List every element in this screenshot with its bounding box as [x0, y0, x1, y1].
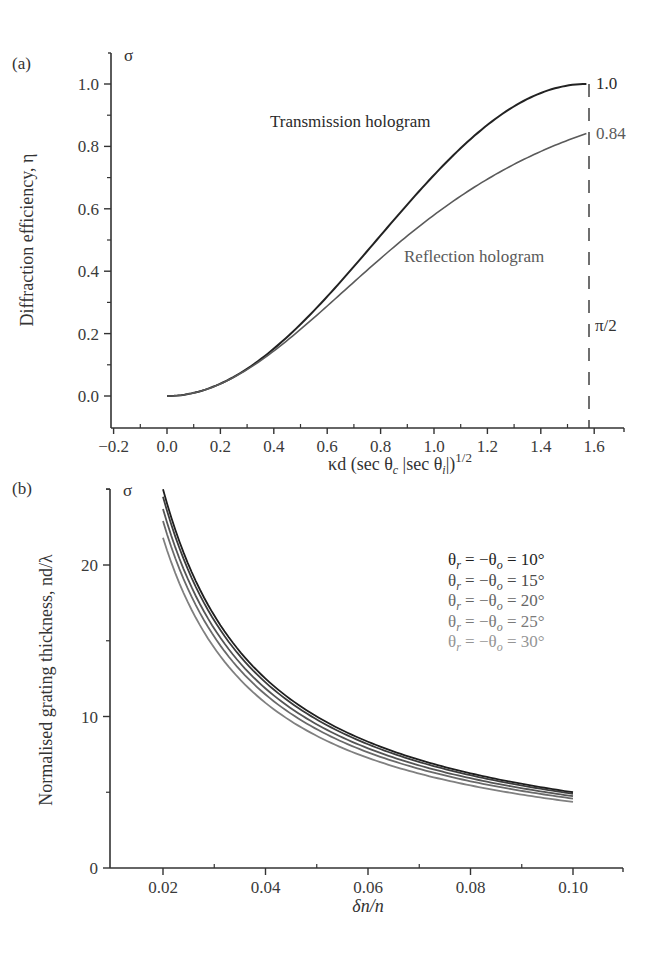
legend-entry: θr = −θo = 10° [448, 550, 545, 572]
x-tick-label-b: 0.06 [353, 878, 383, 897]
x-ticks-b: 0.020.040.060.080.10 [148, 864, 588, 897]
x-tick-label-b: 0.02 [148, 878, 178, 897]
y-tick-label-b: 20 [81, 556, 98, 575]
panel-a-sigma: σ [124, 46, 133, 65]
transmission-label: Transmission hologram [270, 112, 430, 131]
legend-entry: θr = −θo = 25° [448, 612, 545, 634]
y-tick-label-a: 0.8 [78, 137, 99, 156]
end-value-transmission: 1.0 [596, 74, 617, 93]
legend-entry: θr = −θo = 20° [448, 591, 545, 613]
chart-panel-a: (a) σ 0.00.20.40.60.81.0 −0.20.00.20.40.… [12, 46, 626, 477]
x-tick-label-a: 0.0 [156, 437, 177, 456]
x-tick-label-a: 1.2 [477, 437, 498, 456]
y-axis-title-a: Diffraction efficiency, η [17, 153, 37, 326]
x-tick-label-a: 1.4 [530, 437, 552, 456]
x-tick-label-b: 0.10 [558, 878, 588, 897]
legend-entry: θr = −θo = 30° [448, 632, 545, 654]
y-ticks-b: 01020 [81, 489, 110, 878]
y-tick-label-a: 0.2 [78, 325, 99, 344]
legend-entry: θr = −θo = 15° [448, 571, 545, 593]
x-tick-label-a: 1.6 [584, 437, 605, 456]
figure: (a) σ 0.00.20.40.60.81.0 −0.20.00.20.40.… [0, 0, 662, 957]
x-tick-label-b: 0.04 [251, 878, 281, 897]
x-tick-label-a: 0.4 [263, 437, 285, 456]
x-tick-label-b: 0.08 [456, 878, 486, 897]
y-axis-title-b: Normalised grating thickness, nd/λ [36, 554, 56, 806]
pi-half-label: π/2 [595, 316, 617, 335]
panel-b-sigma: σ [123, 481, 132, 500]
y-tick-label-b: 10 [81, 708, 98, 727]
x-tick-label-a: 0.2 [210, 437, 231, 456]
reflection-label: Reflection hologram [404, 247, 544, 266]
x-axis-title-b: δn/n [352, 896, 383, 916]
x-tick-label-a: −0.2 [98, 437, 129, 456]
panel-a-label: (a) [12, 54, 31, 73]
legend-b: θr = −θo = 10°θr = −θo = 15°θr = −θo = 2… [448, 550, 545, 654]
panel-b-label: (b) [12, 479, 32, 498]
y-tick-label-a: 0.4 [78, 262, 100, 281]
y-tick-label-a: 0.0 [78, 387, 99, 406]
y-tick-label-b: 0 [90, 859, 99, 878]
y-ticks-a: 0.00.20.40.60.81.0 [78, 75, 111, 427]
end-value-reflection: 0.84 [596, 124, 626, 143]
y-tick-label-a: 1.0 [78, 75, 99, 94]
x-axis-title-a: κd (sec θc |sec θi|)1/2 [328, 450, 472, 477]
y-tick-label-a: 0.6 [78, 200, 99, 219]
chart-panel-b: (b) σ 01020 0.020.040.060.080.10 Normali… [12, 479, 623, 916]
